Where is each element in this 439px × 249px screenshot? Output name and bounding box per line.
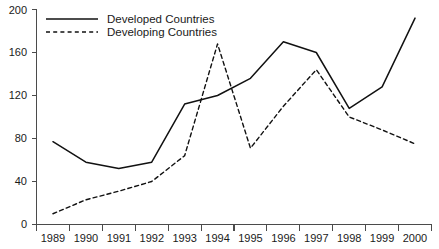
y-tick-label-80: 80 bbox=[15, 132, 27, 144]
chart-container: 0 40 80 120 160 200 1989 1990 bbox=[0, 0, 439, 249]
y-tick-label-200: 200 bbox=[9, 4, 27, 16]
y-tick-label-160: 160 bbox=[9, 46, 27, 58]
y-tick-label-0: 0 bbox=[21, 218, 27, 230]
legend-label-developed-countries: Developed Countries bbox=[107, 13, 215, 25]
y-tick-label-120: 120 bbox=[9, 89, 27, 101]
chart-background bbox=[0, 0, 439, 249]
y-tick-label-40: 40 bbox=[15, 175, 27, 187]
line-chart: 0 40 80 120 160 200 1989 1990 bbox=[0, 0, 439, 249]
figure-footnote bbox=[0, 240, 439, 249]
legend-label-developing-countries: Developing Countries bbox=[107, 26, 217, 38]
